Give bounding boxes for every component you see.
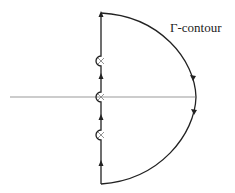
imaginary-axis-contour <box>96 13 101 184</box>
gamma-contour-diagram: Γ-contour <box>0 0 235 193</box>
arrow-up-icon <box>99 11 104 17</box>
pole-lower <box>98 132 104 138</box>
infinite-arc <box>101 13 196 184</box>
gamma-contour-label: Γ-contour <box>170 20 222 35</box>
arrow-up-icon <box>99 73 104 79</box>
pole-upper <box>98 58 104 64</box>
arrow-up-icon <box>99 114 104 120</box>
arrow-down-icon <box>191 109 197 115</box>
arrow-up-icon <box>99 160 104 166</box>
arrow-down-icon <box>190 75 196 81</box>
